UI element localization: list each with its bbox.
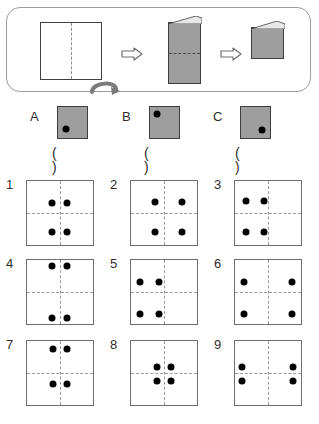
fold-step-3-sheet bbox=[251, 27, 284, 59]
option-b-letter: B bbox=[122, 110, 131, 123]
punch-hole-dot bbox=[137, 279, 144, 286]
answer-option-5[interactable]: 5 bbox=[104, 257, 208, 337]
answer-option-8[interactable]: 8 bbox=[104, 338, 208, 418]
horizontal-fold-line bbox=[131, 213, 197, 214]
punch-hole-dot bbox=[151, 229, 158, 236]
answer-number-label: 8 bbox=[110, 338, 117, 351]
punch-hole-dot bbox=[137, 310, 144, 317]
answer-option-2[interactable]: 2 bbox=[104, 178, 208, 258]
answer-number-label: 9 bbox=[214, 338, 221, 351]
answer-square[interactable] bbox=[234, 180, 302, 246]
horizontal-fold-line bbox=[131, 373, 197, 374]
answer-square[interactable] bbox=[130, 259, 198, 325]
punch-hole-dot bbox=[243, 229, 250, 236]
punch-hole-dot bbox=[261, 198, 268, 205]
punch-hole-dot bbox=[151, 199, 158, 206]
punch-hole-dot bbox=[179, 229, 186, 236]
answer-square[interactable] bbox=[26, 180, 94, 246]
answer-option-9[interactable]: 9 bbox=[208, 338, 312, 418]
punch-hole-dot bbox=[49, 263, 56, 270]
fold-direction-arrow-2 bbox=[317, 53, 319, 87]
answer-option-3[interactable]: 3 bbox=[208, 178, 312, 258]
fold-step-2-sheet bbox=[168, 22, 201, 84]
answer-option-6[interactable]: 6 bbox=[208, 257, 312, 337]
answer-option-7[interactable]: 7 bbox=[0, 338, 104, 418]
fold-instruction-panel bbox=[6, 7, 311, 92]
horizontal-fold-line bbox=[27, 213, 93, 214]
punch-hole-dot bbox=[290, 378, 297, 385]
paper-flap-edge bbox=[168, 16, 202, 24]
punch-hole-dot bbox=[155, 310, 162, 317]
answer-number-label: 1 bbox=[6, 178, 13, 191]
punch-hole-dot bbox=[49, 345, 56, 352]
punch-hole-dot bbox=[168, 378, 175, 385]
horizontal-fold-line bbox=[235, 292, 301, 293]
horizontal-fold-line bbox=[169, 53, 200, 54]
answer-option-4[interactable]: 4 bbox=[0, 257, 104, 337]
sequence-arrow-1-icon bbox=[121, 46, 143, 62]
punch-hole-dot bbox=[49, 380, 56, 387]
punch-hole-dot bbox=[155, 279, 162, 286]
punch-hole-dot bbox=[63, 345, 70, 352]
sequence-arrow-2-icon bbox=[220, 46, 242, 62]
vertical-fold-line bbox=[71, 23, 72, 79]
horizontal-fold-line bbox=[235, 373, 301, 374]
punch-dot bbox=[154, 111, 161, 118]
option-c-card[interactable] bbox=[240, 106, 271, 139]
horizontal-fold-line bbox=[27, 292, 93, 293]
horizontal-fold-line bbox=[27, 373, 93, 374]
option-c-letter: C bbox=[213, 110, 222, 123]
option-a-blank[interactable]: ( ) bbox=[52, 146, 73, 174]
punch-hole-dot bbox=[239, 378, 246, 385]
punch-hole-dot bbox=[179, 199, 186, 206]
punch-hole-dot bbox=[240, 310, 247, 317]
punch-hole-dot bbox=[290, 364, 297, 371]
punch-hole-dot bbox=[63, 199, 70, 206]
fold-step-1-sheet bbox=[40, 22, 102, 80]
answer-number-label: 5 bbox=[110, 257, 117, 270]
punch-hole-dot bbox=[153, 363, 160, 370]
punch-hole-dot bbox=[239, 364, 246, 371]
punch-hole-dot bbox=[243, 198, 250, 205]
answer-number-label: 7 bbox=[6, 338, 13, 351]
answer-number-label: 4 bbox=[6, 257, 13, 270]
punch-hole-dot bbox=[63, 228, 70, 235]
answer-square[interactable] bbox=[130, 180, 198, 246]
punch-dot bbox=[62, 126, 69, 133]
punch-hole-dot bbox=[261, 229, 268, 236]
punch-hole-dot bbox=[63, 314, 70, 321]
fold-direction-arrow-1 bbox=[89, 78, 123, 98]
answer-number-label: 6 bbox=[214, 257, 221, 270]
answer-square[interactable] bbox=[130, 340, 198, 406]
punch-dot bbox=[259, 126, 266, 133]
answer-number-label: 3 bbox=[214, 178, 221, 191]
answer-square[interactable] bbox=[26, 259, 94, 325]
option-a-letter: A bbox=[30, 110, 39, 123]
punch-hole-dot bbox=[240, 278, 247, 285]
horizontal-fold-line bbox=[131, 292, 197, 293]
paper-flap-edge-final bbox=[251, 21, 285, 29]
punch-hole-dot bbox=[63, 263, 70, 270]
punch-hole-dot bbox=[289, 278, 296, 285]
punch-hole-dot bbox=[49, 199, 56, 206]
punch-hole-dot bbox=[168, 363, 175, 370]
answer-number-label: 2 bbox=[110, 178, 117, 191]
answer-square[interactable] bbox=[234, 259, 302, 325]
punch-hole-dot bbox=[289, 310, 296, 317]
option-a-card[interactable] bbox=[57, 106, 88, 139]
punch-hole-dot bbox=[49, 228, 56, 235]
punch-hole-dot bbox=[63, 380, 70, 387]
horizontal-fold-line bbox=[235, 213, 301, 214]
punch-hole-dot bbox=[49, 314, 56, 321]
option-b-card[interactable] bbox=[149, 106, 180, 139]
punch-hole-dot bbox=[153, 378, 160, 385]
answer-option-1[interactable]: 1 bbox=[0, 178, 104, 258]
answer-square[interactable] bbox=[234, 340, 302, 406]
answer-square[interactable] bbox=[26, 340, 94, 406]
option-b-blank[interactable]: ( ) bbox=[144, 146, 165, 174]
option-c-blank[interactable]: ( ) bbox=[235, 146, 256, 174]
